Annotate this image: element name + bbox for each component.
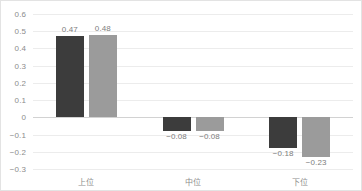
y-axis-tick-label: 0.6 <box>0 10 26 19</box>
y-axis-tick-label: −0.2 <box>0 147 26 156</box>
bar-value-label: −0.08 <box>190 132 230 141</box>
plot-area: 0.470.48−0.08−0.08−0.18−0.23 <box>33 14 353 169</box>
y-axis-tick-label: 0.3 <box>0 61 26 70</box>
x-axis-category-label: 上位 <box>78 176 94 187</box>
bar-value-label: 0.48 <box>83 24 123 33</box>
x-axis-category-label: 下位 <box>292 176 308 187</box>
bar <box>56 36 84 117</box>
y-axis-tick-label: 0.4 <box>0 44 26 53</box>
y-axis-tick-label: 0.5 <box>0 27 26 36</box>
y-axis-tick-label: 0.2 <box>0 78 26 87</box>
y-axis-tick-label: 0 <box>0 113 26 122</box>
y-axis-tick-label: −0.1 <box>0 130 26 139</box>
y-axis-tick-label: −0.3 <box>0 165 26 174</box>
bar-chart: 0.60.50.40.30.20.10−0.1−0.2−0.3 0.470.48… <box>0 0 362 191</box>
bar <box>89 35 117 118</box>
y-axis-tick-label: 0.1 <box>0 96 26 105</box>
gridline <box>33 169 353 170</box>
bar <box>163 117 191 131</box>
bar-value-label: −0.23 <box>296 158 336 167</box>
bar <box>302 117 330 157</box>
bar <box>269 117 297 148</box>
bar <box>196 117 224 131</box>
x-axis-category-label: 中位 <box>185 176 201 187</box>
